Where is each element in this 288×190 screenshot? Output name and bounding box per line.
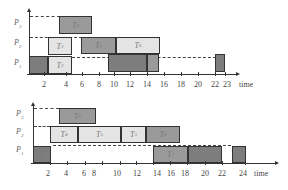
x-tick bbox=[245, 161, 246, 165]
x-tick-label: 6 bbox=[80, 80, 84, 89]
x-tick-label: 4 bbox=[64, 80, 68, 89]
x-tick-label: 20 bbox=[201, 169, 209, 178]
x-axis bbox=[27, 74, 237, 75]
processor-label-p3: P3 bbox=[16, 109, 23, 120]
x-tick bbox=[181, 72, 182, 76]
x-tick-label: 10 bbox=[110, 80, 118, 89]
task-block-t3: T3 bbox=[121, 126, 146, 143]
x-tick bbox=[66, 72, 67, 76]
schedule-chart-top: P3 P2 P1 T4 T3 T5 T6 T1 T2 2 4 6 8 10 12… bbox=[0, 0, 288, 95]
processor-label-p3: P3 bbox=[14, 18, 21, 29]
x-tick bbox=[120, 161, 121, 165]
task-block-t1: T1 bbox=[29, 56, 48, 74]
x-tick-label: 14 bbox=[153, 169, 161, 178]
p3-guide-line bbox=[34, 108, 59, 109]
x-tick-label: 20 bbox=[194, 80, 202, 89]
x-tick bbox=[114, 72, 115, 76]
task-block-t5: T5 bbox=[81, 37, 116, 54]
x-tick-label: 16 bbox=[167, 169, 175, 178]
x-tick-label: 22 bbox=[218, 169, 226, 178]
task-block-t5: T5 bbox=[78, 126, 121, 143]
x-tick bbox=[187, 161, 188, 165]
x-tick-label: 4 bbox=[64, 169, 68, 178]
task-block-t6-p2: T6 bbox=[146, 126, 180, 143]
x-tick-label: 2 bbox=[46, 169, 50, 178]
task-block-p1-c bbox=[215, 54, 225, 72]
task-block-t4: T4 bbox=[50, 126, 78, 143]
x-tick bbox=[102, 161, 103, 165]
x-tick bbox=[198, 72, 199, 76]
x-tick bbox=[170, 161, 171, 165]
x-tick bbox=[164, 72, 165, 76]
x-tick-label: 8 bbox=[97, 80, 101, 89]
x-tick bbox=[44, 72, 45, 76]
task-block-t2: T2 bbox=[48, 56, 72, 74]
task-block-t4: T4 bbox=[59, 16, 92, 34]
x-tick bbox=[50, 161, 51, 165]
x-tick-label: 6 bbox=[82, 169, 86, 178]
x-axis-arrow-icon bbox=[275, 161, 279, 165]
task-block-t6-p3: T6 bbox=[59, 108, 96, 124]
processor-label-p2: P2 bbox=[16, 127, 23, 138]
x-axis-arrow-icon bbox=[236, 72, 240, 76]
task-block-t6: T6 bbox=[116, 37, 160, 54]
processor-label-p2: P2 bbox=[14, 38, 21, 49]
y-axis-arrow-icon bbox=[27, 8, 31, 12]
x-tick-label: 12 bbox=[133, 169, 141, 178]
x-tick bbox=[205, 161, 206, 165]
x-tick-label: 12 bbox=[126, 80, 134, 89]
task-block-p1-b bbox=[232, 146, 246, 163]
task-block-t1: T1 bbox=[33, 146, 51, 163]
task-block-p1-a bbox=[108, 54, 147, 72]
x-tick-label: 10 bbox=[113, 169, 121, 178]
x-tick bbox=[99, 72, 100, 76]
x-tick bbox=[215, 72, 216, 76]
x-tick-label: 22 bbox=[211, 80, 219, 89]
x-tick bbox=[225, 72, 226, 76]
task-block-p1-b bbox=[147, 54, 159, 72]
x-tick-label: 16 bbox=[160, 80, 168, 89]
x-tick-label: 24 bbox=[239, 169, 247, 178]
y-axis-arrow-icon bbox=[31, 102, 35, 106]
x-tick-label: 2 bbox=[42, 80, 46, 89]
processor-label-p1: P1 bbox=[14, 58, 21, 69]
processor-label-p1: P1 bbox=[16, 145, 23, 156]
x-tick bbox=[222, 161, 223, 165]
x-tick-label: 23 bbox=[223, 80, 231, 89]
x-tick-label: 14 bbox=[143, 80, 151, 89]
x-tick bbox=[136, 161, 137, 165]
x-tick bbox=[67, 161, 68, 165]
x-tick bbox=[153, 161, 154, 165]
schedule-chart-bottom: P3 P2 P1 T6 T4 T5 T3 T6 T1 T7 2 4 6 8 10… bbox=[0, 95, 288, 190]
p3-guide-line bbox=[30, 16, 60, 17]
x-tick bbox=[85, 161, 86, 165]
p2-guide-line bbox=[34, 126, 50, 127]
x-tick-label: 18 bbox=[177, 80, 185, 89]
x-tick-label: 8 bbox=[92, 169, 96, 178]
x-axis-label: time bbox=[254, 169, 268, 178]
task-block-t3: T3 bbox=[48, 37, 72, 55]
x-tick bbox=[147, 72, 148, 76]
x-axis-label: time bbox=[239, 80, 253, 89]
x-tick bbox=[130, 72, 131, 76]
x-tick bbox=[82, 72, 83, 76]
x-tick-label: 18 bbox=[181, 169, 189, 178]
